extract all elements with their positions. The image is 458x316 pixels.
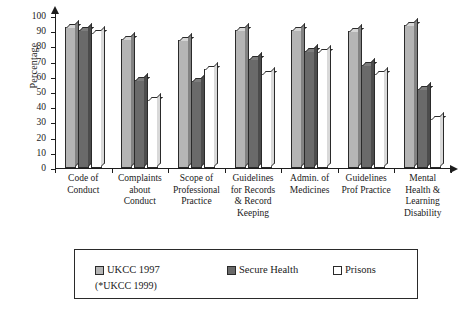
legend-label: Secure Health: [239, 264, 298, 276]
y-tick: 20: [51, 139, 55, 140]
y-tick-label: 50: [37, 88, 47, 98]
bar[interactable]: [121, 39, 132, 168]
bar[interactable]: [91, 33, 102, 168]
bar[interactable]: [304, 51, 315, 168]
legend-item[interactable]: Prisons: [333, 264, 376, 276]
y-axis-line: [55, 13, 56, 169]
legend-item[interactable]: UKCC 1997: [95, 264, 160, 276]
y-tick: 70: [51, 63, 55, 64]
bar[interactable]: [291, 30, 302, 168]
bar-group: [235, 16, 276, 168]
bar-side-face: [384, 67, 388, 167]
legend-label: UKCC 1997: [107, 264, 160, 276]
x-category-label: Admin. ofMedicines: [277, 173, 342, 196]
bar[interactable]: [248, 59, 259, 168]
y-tick-label: 70: [37, 58, 47, 68]
bar-side-face: [440, 112, 444, 167]
x-category-label-line: about: [108, 185, 173, 197]
y-tick-label: 10: [37, 149, 47, 159]
x-axis-line: [55, 168, 451, 169]
bar-group: [65, 16, 106, 168]
x-category-label: MentalHealth &LearningDisability: [390, 173, 455, 219]
y-tick: 30: [51, 123, 55, 124]
bar[interactable]: [134, 80, 145, 168]
x-category-label-line: & Record: [221, 196, 286, 208]
y-tick: 100: [51, 17, 55, 18]
bar[interactable]: [361, 65, 372, 168]
bar[interactable]: [65, 27, 76, 168]
x-category-label-line: Professional: [164, 185, 229, 197]
x-category-label-line: Admin. of: [277, 173, 342, 185]
bar-group: [291, 16, 332, 168]
bar[interactable]: [178, 40, 189, 168]
y-tick: 90: [51, 32, 55, 33]
x-category-label-line: Scope of: [164, 173, 229, 185]
x-category-label: Code ofConduct: [51, 173, 116, 196]
bar[interactable]: [235, 30, 246, 168]
bar[interactable]: [147, 100, 158, 168]
x-category-label-line: Code of: [51, 173, 116, 185]
x-category-label-line: for Records: [221, 185, 286, 197]
y-tick: 60: [51, 78, 55, 79]
legend-swatch-icon: [227, 266, 236, 275]
bar-top-face: [122, 36, 137, 40]
y-tick-label: 20: [37, 134, 47, 144]
bar[interactable]: [404, 25, 415, 168]
bar-side-face: [327, 45, 331, 167]
x-category-label-line: Learning: [390, 196, 455, 208]
bar-side-face: [157, 93, 161, 167]
x-category-label-line: Prof Practice: [334, 185, 399, 197]
y-tick: 80: [51, 47, 55, 48]
legend-item[interactable]: Secure Health: [227, 264, 298, 276]
x-category-label: ComplaintsaboutConduct: [108, 173, 173, 208]
y-tick-label: 100: [32, 12, 46, 22]
bar-top-face: [135, 77, 150, 81]
x-category-label-line: Medicines: [277, 185, 342, 197]
x-category-label-line: Guidelines: [334, 173, 399, 185]
y-tick-label: 80: [37, 43, 47, 53]
bar-side-face: [214, 62, 218, 167]
bar[interactable]: [78, 30, 89, 168]
bar-group: [348, 16, 389, 168]
x-category-label-line: Practice: [164, 196, 229, 208]
x-category-label-line: Keeping: [221, 208, 286, 220]
bar[interactable]: [348, 31, 359, 168]
bar-group: [178, 16, 219, 168]
x-category-label: Guidelinesfor Records& RecordKeeping: [221, 173, 286, 219]
bar-group: [404, 16, 445, 168]
y-tick: 40: [51, 108, 55, 109]
bar[interactable]: [191, 81, 202, 168]
bar[interactable]: [417, 89, 428, 168]
x-category-label-line: Guidelines: [221, 173, 286, 185]
bar-top-face: [148, 97, 163, 101]
x-category-label-line: Disability: [390, 208, 455, 220]
bar-side-face: [271, 67, 275, 167]
legend-footnote: (*UKCC 1999): [95, 280, 157, 291]
bar-group: [121, 16, 162, 168]
legend-items: UKCC 1997Secure HealthPrisons: [75, 264, 417, 278]
y-tick-label: 40: [37, 103, 47, 113]
y-tick-label: 0: [41, 164, 46, 174]
x-category-label-line: Mental: [390, 173, 455, 185]
x-category-label-line: Conduct: [51, 185, 116, 197]
x-category-label-line: Conduct: [108, 196, 173, 208]
plot-area: 0102030405060708090100: [55, 17, 451, 169]
x-category-label-line: Complaints: [108, 173, 173, 185]
bar[interactable]: [430, 119, 441, 168]
x-axis-category-labels: Code ofConductComplaintsaboutConductScop…: [55, 173, 451, 231]
legend: UKCC 1997Secure HealthPrisons (*UKCC 199…: [74, 249, 418, 299]
legend-label: Prisons: [345, 264, 376, 276]
legend-swatch-icon: [95, 266, 104, 275]
bar[interactable]: [317, 52, 328, 168]
y-tick: 10: [51, 154, 55, 155]
bar-side-face: [101, 26, 105, 167]
y-tick-label: 90: [37, 27, 47, 37]
y-tick-label: 60: [37, 73, 47, 83]
bar[interactable]: [261, 74, 272, 168]
y-tick-label: 30: [37, 119, 47, 129]
bar[interactable]: [204, 69, 215, 168]
y-axis-arrow-icon: [51, 6, 59, 14]
bar[interactable]: [374, 74, 385, 168]
y-tick: 50: [51, 93, 55, 94]
